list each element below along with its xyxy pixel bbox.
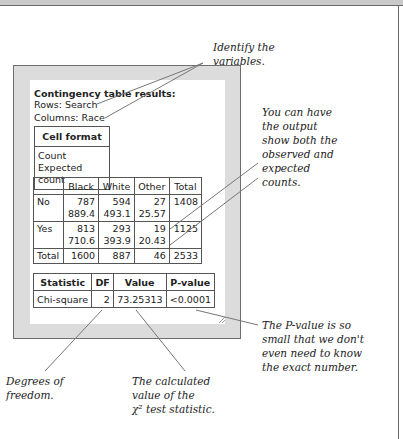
annotation-pointer-lines — [0, 0, 403, 439]
pointer-line-expected — [170, 178, 258, 245]
pointer-line-observed — [170, 163, 258, 229]
pointer-line-value — [136, 310, 185, 371]
pointer-line-df — [45, 310, 102, 371]
pointer-line-columns — [105, 63, 203, 118]
pointer-line-rows — [97, 63, 203, 104]
pointer-line-pvalue — [196, 310, 258, 325]
